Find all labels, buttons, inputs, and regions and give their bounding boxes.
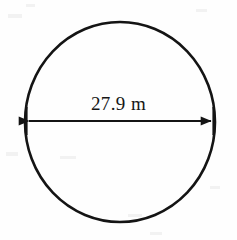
- diagram-canvas: [0, 0, 237, 240]
- circle-diameter-figure: 27.9 m: [0, 0, 237, 240]
- diameter-label: 27.9 m: [0, 94, 237, 113]
- circle-outline: [25, 22, 215, 222]
